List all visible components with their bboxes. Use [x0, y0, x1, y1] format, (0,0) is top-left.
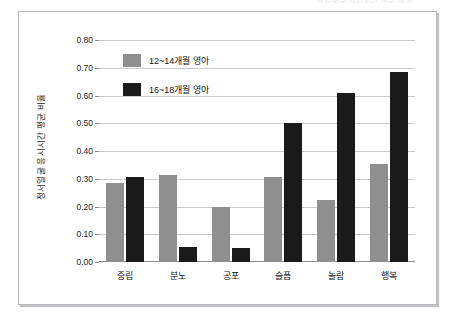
y-axis-tick-mark	[95, 262, 99, 263]
y-axis-tick-label: 0.80	[53, 35, 93, 45]
bar-group: 슬픔	[257, 40, 310, 262]
y-axis-tick-label: 0.00	[53, 257, 93, 267]
bar	[370, 164, 388, 262]
legend-item: 16~18개월 영아	[123, 83, 209, 96]
bar-group: 행복	[362, 40, 415, 262]
legend-label: 12~14개월 영아	[149, 54, 209, 67]
y-axis-tick-label: 0.40	[53, 146, 93, 156]
bar	[126, 177, 144, 262]
bar	[264, 177, 282, 262]
bar	[179, 247, 197, 262]
x-axis-tick-label: 중립	[99, 269, 152, 282]
legend-swatch	[123, 54, 141, 67]
bar	[212, 207, 230, 263]
top-caption: 정서얼굴 응시시간 평균 비율	[317, 0, 413, 3]
y-axis-tick-label: 0.30	[53, 174, 93, 184]
x-axis-tick-label: 공포	[204, 269, 257, 282]
x-axis-tick-label: 행복	[362, 269, 415, 282]
y-axis-tick-label: 0.60	[53, 91, 93, 101]
bar	[232, 248, 250, 262]
bar	[337, 93, 355, 262]
x-axis-tick-label: 분노	[152, 269, 205, 282]
bar	[284, 123, 302, 262]
y-axis-tick-label: 0.70	[53, 63, 93, 73]
chart-legend: 12~14개월 영아16~18개월 영아	[123, 54, 209, 96]
bar	[106, 183, 124, 262]
bar-chart: 정서얼굴 응시시간 평균 비율 0.800.700.600.500.400.30…	[19, 12, 436, 304]
x-axis-tick-label: 슬픔	[257, 269, 310, 282]
bar-group: 놀람	[310, 40, 363, 262]
y-axis-tick-label: 0.20	[53, 202, 93, 212]
legend-swatch	[123, 83, 141, 96]
y-axis-tick-label: 0.10	[53, 229, 93, 239]
figure-frame: 정서얼굴 응시시간 평균 비율 0.800.700.600.500.400.30…	[18, 11, 437, 305]
screenshot-root: 정서얼굴 응시시간 평균 비율 정서얼굴 응시시간 평균 비율 0.800.70…	[0, 0, 455, 317]
bar	[390, 72, 408, 262]
bar-group: 공포	[204, 40, 257, 262]
legend-item: 12~14개월 영아	[123, 54, 209, 67]
bar	[159, 175, 177, 262]
y-axis-title: 정서얼굴 응시시간 평균 비율	[33, 62, 49, 232]
bar	[317, 200, 335, 262]
x-axis-tick-label: 놀람	[310, 269, 363, 282]
y-axis-tick-label: 0.50	[53, 118, 93, 128]
legend-label: 16~18개월 영아	[149, 83, 209, 96]
